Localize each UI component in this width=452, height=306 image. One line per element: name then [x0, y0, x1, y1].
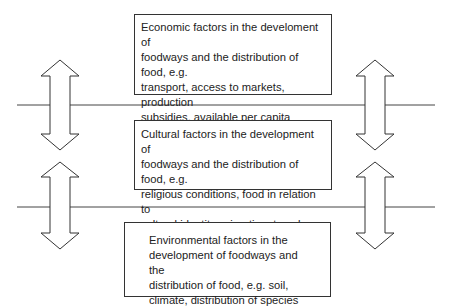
- box-text-line: Environmental factors in the: [149, 233, 312, 248]
- box-text-line: distribution of food, e.g. soil,: [149, 278, 312, 293]
- box-text-line: climate, distribution of species: [149, 293, 312, 306]
- double-arrow-icon-right-bottom: [356, 162, 394, 249]
- box-text-line: foodways and the distribution of food, e…: [141, 157, 325, 187]
- box-text-line: foodways and the distribution of food, e…: [141, 50, 325, 80]
- environmental-factors-box: Environmental factors in the development…: [124, 222, 331, 297]
- economic-factors-box: Economic factors in the develoment of fo…: [134, 14, 332, 95]
- box-text-line: development of foodways and the: [149, 248, 312, 278]
- box-text-line: religious conditions, food in relation t…: [141, 187, 325, 217]
- box-text-line: transport, access to markets, production: [141, 80, 325, 110]
- box-text-line: Cultural factors in the development of: [141, 127, 325, 157]
- double-arrow-icon-left-bottom: [41, 162, 79, 249]
- cultural-factors-box: Cultural factors in the development of f…: [134, 120, 332, 190]
- box-text-line: Economic factors in the develoment of: [141, 20, 325, 50]
